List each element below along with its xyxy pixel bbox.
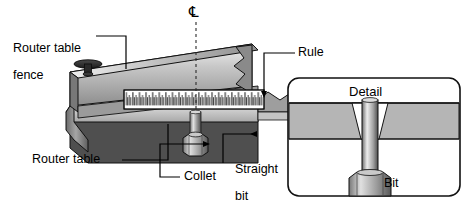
- label-straight-bit-line1: Straight: [235, 162, 278, 176]
- detail-bit-shaft: [362, 98, 378, 178]
- label-straight-bit-line2: bit: [235, 189, 248, 203]
- illustration-canvas: Router table fence Rule Router table Col…: [0, 0, 465, 204]
- label-router-table-fence-line1: Router table: [13, 41, 81, 55]
- label-router-table: Router table: [32, 153, 100, 167]
- rule-strip: [124, 90, 264, 109]
- label-bit: Bit: [384, 177, 399, 191]
- centerline-symbol: ℄: [189, 5, 199, 19]
- label-router-table-fence-line2: fence: [13, 68, 44, 82]
- label-rule: Rule: [298, 46, 324, 60]
- label-collet: Collet: [184, 170, 216, 184]
- label-straight-bit: Straight bit: [228, 149, 278, 203]
- label-router-table-fence: Router table fence: [6, 28, 81, 82]
- detail-box-title: Detail: [349, 84, 382, 99]
